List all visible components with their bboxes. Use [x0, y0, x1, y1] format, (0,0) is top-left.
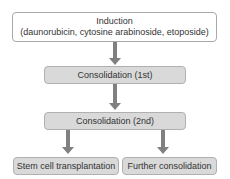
stem-cell-transplantation-label: Stem cell transplantation: [17, 161, 116, 172]
arrow-induction-to-consolidation-1: [109, 42, 121, 66]
arrow-to-stem-cell: [62, 130, 74, 156]
consolidation-2nd-box: Consolidation (2nd): [44, 112, 186, 130]
consolidation-2nd-label: Consolidation (2nd): [76, 116, 154, 127]
consolidation-1st-box: Consolidation (1st): [44, 66, 186, 84]
stem-cell-transplantation-box: Stem cell transplantation: [13, 157, 119, 175]
further-consolidation-box: Further consolidation: [122, 157, 217, 175]
induction-drugs: (daunorubicin, cytosine arabinoside, eto…: [20, 27, 209, 38]
induction-title: Induction: [96, 16, 133, 27]
arrow-consolidation-1-to-2: [109, 84, 121, 111]
arrow-to-further-consolidation: [157, 130, 169, 156]
consolidation-1st-label: Consolidation (1st): [77, 70, 152, 81]
induction-box: Induction (daunorubicin, cytosine arabin…: [12, 12, 217, 42]
further-consolidation-label: Further consolidation: [127, 161, 211, 172]
